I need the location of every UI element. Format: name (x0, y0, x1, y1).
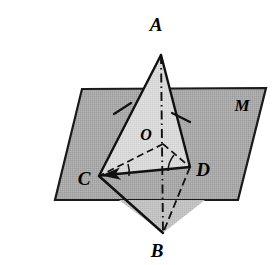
label-vertex-b: B (150, 240, 164, 261)
geometry-figure: A B C D O M (0, 0, 280, 265)
label-vertex-a: A (149, 14, 163, 35)
label-vertex-d: D (195, 159, 210, 180)
label-plane-m: M (233, 96, 250, 115)
label-point-o: O (140, 126, 152, 143)
geometry-canvas: A B C D O M (0, 0, 280, 265)
label-vertex-c: C (78, 168, 91, 189)
